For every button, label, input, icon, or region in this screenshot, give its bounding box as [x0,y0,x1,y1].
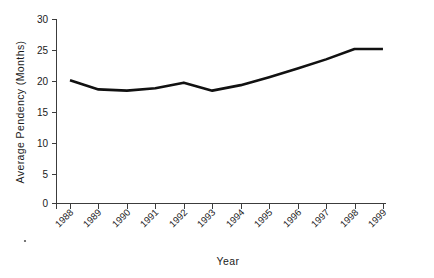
x-tick-label: 1990 [110,207,133,230]
y-tick-label: 5 [42,169,48,180]
x-tick-label: 1994 [224,207,247,230]
x-axis-title: Year [217,255,240,267]
y-tick-label: 20 [37,76,49,87]
artifact-dot [24,240,26,242]
y-axis-tick-labels: 30 25 20 15 10 5 0 [37,14,49,209]
x-axis-tick-labels: 1988 1989 1990 1991 1992 1993 1994 1995 … [53,207,389,230]
x-tick-label: 1991 [138,207,161,230]
chart-figure: 30 25 20 15 10 5 0 1988 1989 [0,0,434,278]
y-axis-title: Average Pendency (Months) [14,41,26,184]
x-tick-label: 1992 [167,207,190,230]
pendency-line-series [70,49,383,91]
x-tick-label: 1997 [309,207,332,230]
x-tick-label: 1993 [195,207,218,230]
y-axis-ticks [52,20,57,204]
x-axis-ticks [57,204,384,209]
x-tick-label: 1998 [338,207,361,230]
y-tick-label: 10 [37,138,49,149]
x-tick-label: 1996 [281,207,304,230]
y-tick-label: 25 [37,45,49,56]
x-tick-label: 1988 [53,207,76,230]
x-tick-label: 1999 [366,207,389,230]
x-tick-label: 1989 [81,207,104,230]
line-chart-canvas: 30 25 20 15 10 5 0 1988 1989 [0,0,434,278]
x-tick-label: 1995 [252,207,275,230]
y-tick-label: 0 [42,198,48,209]
y-tick-label: 15 [37,107,49,118]
y-tick-label: 30 [37,14,49,25]
